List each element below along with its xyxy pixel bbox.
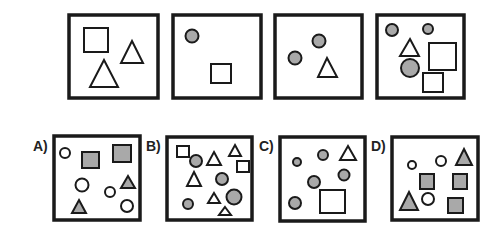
answer-options-row: A)B)C)D)	[33, 136, 478, 221]
white-circle-icon	[436, 156, 446, 166]
sequence-box-3	[275, 15, 362, 98]
white-circle-icon	[121, 200, 133, 212]
gray-square-icon	[453, 174, 467, 189]
frame	[173, 15, 261, 98]
white-square-icon	[84, 28, 108, 52]
white-circle-icon	[105, 187, 115, 197]
sequence-box-4	[377, 15, 464, 98]
sequence-box-2	[173, 15, 261, 98]
gray-circle-icon	[339, 170, 350, 181]
white-circle-icon	[408, 161, 416, 169]
gray-circle-icon	[227, 190, 242, 205]
white-square-icon	[211, 64, 231, 83]
gray-square-icon	[113, 145, 131, 162]
gray-circle-icon	[308, 176, 320, 188]
white-square-icon	[423, 73, 443, 92]
option-b[interactable]: B)	[146, 137, 252, 220]
option-c-label[interactable]: C)	[259, 138, 274, 154]
gray-circle-icon	[293, 158, 301, 166]
gray-circle-icon	[313, 35, 326, 48]
gray-square-icon	[82, 152, 99, 168]
gray-circle-icon	[289, 52, 302, 65]
option-c[interactable]: C)	[259, 137, 365, 221]
white-square-icon	[177, 146, 189, 157]
white-square-icon	[237, 161, 249, 172]
gray-square-icon	[448, 198, 463, 213]
sequence-box-1	[69, 15, 158, 98]
gray-circle-icon	[386, 24, 398, 36]
gray-circle-icon	[423, 24, 433, 34]
gray-square-icon	[420, 174, 434, 189]
option-d-label[interactable]: D)	[371, 138, 386, 154]
white-circle-icon	[76, 179, 89, 192]
option-b-label[interactable]: B)	[146, 138, 161, 154]
option-d[interactable]: D)	[371, 137, 478, 220]
gray-circle-icon	[401, 59, 419, 77]
gray-circle-icon	[183, 199, 193, 209]
gray-circle-icon	[289, 197, 301, 209]
option-a-label[interactable]: A)	[33, 138, 48, 154]
white-circle-icon	[422, 193, 434, 205]
gray-circle-icon	[216, 173, 228, 185]
white-circle-icon	[60, 148, 70, 158]
gray-circle-icon	[190, 155, 202, 167]
gray-circle-icon	[318, 150, 328, 160]
pattern-puzzle: A)B)C)D)	[0, 0, 495, 235]
white-square-icon	[320, 190, 345, 213]
gray-circle-icon	[186, 30, 199, 43]
white-square-icon	[429, 43, 456, 70]
option-a[interactable]: A)	[33, 136, 140, 220]
sequence-row	[69, 15, 464, 98]
